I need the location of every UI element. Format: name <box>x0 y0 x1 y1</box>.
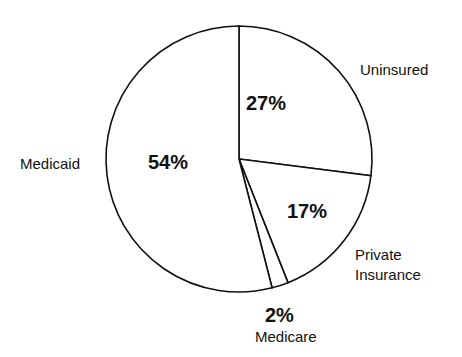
value-medicare: 2% <box>265 304 294 326</box>
label-medicare: Medicare <box>255 328 317 345</box>
label-uninsured: Uninsured <box>360 61 428 78</box>
pie-slices <box>106 26 372 292</box>
value-medicaid: 54% <box>148 151 188 173</box>
label-private-line2: Insurance <box>355 266 421 283</box>
label-private-line1: Private <box>355 246 402 263</box>
label-medicaid: Medicaid <box>20 155 80 172</box>
value-private-insurance: 17% <box>287 200 327 222</box>
value-uninsured: 27% <box>246 92 286 114</box>
pie-chart: 27% 17% 2% 54% Uninsured Private Insuran… <box>0 0 462 357</box>
